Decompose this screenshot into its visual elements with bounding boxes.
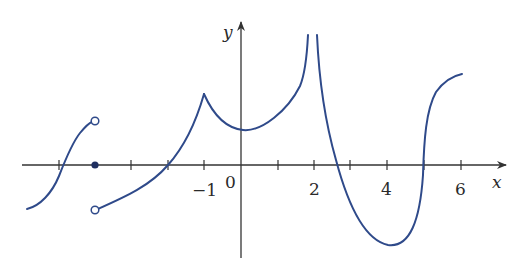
x-axis-label: x	[492, 172, 502, 192]
graph-figure: −1 0 2 4 6 x y	[0, 0, 524, 274]
curve-middle-branch	[98, 94, 204, 209]
graph-canvas: −1 0 2 4 6 x y	[0, 0, 524, 274]
open-point-left-top	[91, 117, 99, 125]
curve-right-branch	[317, 35, 462, 245]
open-point-middle-start	[91, 206, 99, 214]
curve-middle-dip	[204, 35, 308, 130]
tick-label-neg1: −1	[192, 180, 217, 200]
tick-label-6: 6	[455, 179, 466, 199]
y-axis-label: y	[222, 22, 233, 42]
tick-label-4: 4	[381, 179, 392, 199]
filled-point	[91, 161, 98, 168]
tick-label-0: 0	[225, 172, 236, 192]
tick-label-2: 2	[309, 179, 320, 199]
